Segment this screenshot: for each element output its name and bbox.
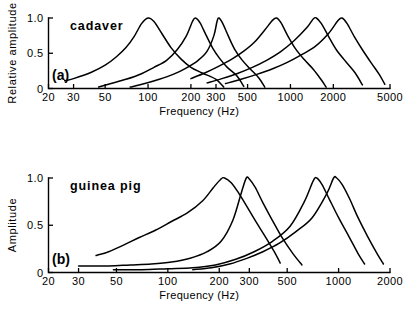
x-ticklabel-200: 200	[181, 91, 201, 103]
x-ticklabel-20: 20	[42, 275, 55, 287]
panel-letter-a: (a)	[52, 67, 69, 83]
x-ticklabel-50: 50	[110, 275, 123, 287]
x-ticklabel-5000: 5000	[377, 91, 403, 103]
curve-curve-6-peak-2300	[226, 18, 385, 84]
x-ticklabel-500: 500	[277, 275, 297, 287]
guinea-pig-chart-svg: 2030501002003005001000200000.51.0guinea …	[0, 150, 417, 313]
x-ticklabel-100: 100	[158, 275, 178, 287]
x-ticklabel-50: 50	[99, 91, 112, 103]
curve-curve-5-peak-1500	[207, 17, 362, 85]
y-axis-title: Amplitude	[6, 198, 18, 252]
x-ticklabel-2000: 2000	[377, 275, 403, 287]
y-ticklabel-0.5: 0.5	[27, 47, 44, 59]
curve-curve-4-peak-950	[193, 177, 384, 270]
y-axis-title: Relative amplitude	[6, 2, 18, 103]
x-ticklabel-1000: 1000	[326, 275, 352, 287]
x-ticklabel-300: 300	[240, 275, 260, 287]
y-ticklabel-0: 0	[37, 267, 44, 279]
x-ticklabel-20: 20	[42, 91, 55, 103]
x-ticklabel-200: 200	[209, 275, 229, 287]
y-ticklabel-0: 0	[37, 83, 44, 95]
y-ticklabel-1.0: 1.0	[27, 12, 44, 24]
x-ticklabel-1000: 1000	[277, 91, 303, 103]
x-ticklabel-30: 30	[67, 91, 80, 103]
panel-title-a: cadaver	[70, 19, 124, 33]
x-axis-title: Frequency (Hz)	[159, 289, 239, 301]
cadaver-chart-svg: 20305010020030050010002000500000.51.0cad…	[0, 0, 417, 150]
panel-b-guinea-pig: 2030501002003005001000200000.51.0guinea …	[0, 150, 417, 313]
panel-letter-b: (b)	[52, 251, 70, 267]
panel-a-cadaver: 20305010020030050010002000500000.51.0cad…	[0, 0, 417, 150]
y-ticklabel-0.5: 0.5	[27, 219, 44, 231]
x-ticklabel-100: 100	[138, 91, 158, 103]
panel-title-b: guinea pig	[70, 179, 142, 193]
x-ticklabel-300: 300	[206, 91, 226, 103]
x-ticklabel-2000: 2000	[320, 91, 346, 103]
y-ticklabel-1.0: 1.0	[27, 172, 44, 184]
x-axis-title: Frequency (Hz)	[159, 105, 239, 117]
x-ticklabel-500: 500	[238, 91, 258, 103]
x-ticklabel-30: 30	[72, 275, 85, 287]
curve-curve-3-peak-730	[113, 178, 364, 270]
